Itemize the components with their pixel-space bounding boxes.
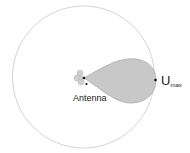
- umax-marker: [154, 79, 157, 82]
- umax-label-main: U: [161, 73, 170, 88]
- antenna-origin-marker: [83, 77, 86, 80]
- antenna-icon: [74, 70, 84, 85]
- umax-label-subscript: max: [170, 82, 181, 88]
- umax-label: Umax: [161, 73, 182, 88]
- antenna-pointer-marker: [85, 83, 87, 85]
- antenna-label: Antenna: [73, 93, 107, 103]
- antenna-pattern-diagram: Antenna Umax: [0, 0, 190, 153]
